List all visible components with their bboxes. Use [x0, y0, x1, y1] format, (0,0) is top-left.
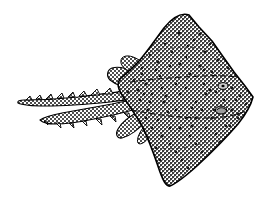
denticle-spot: [146, 108, 149, 111]
denticle-spot: [239, 95, 241, 97]
denticle-spot: [229, 125, 231, 127]
denticle-spot: [155, 147, 157, 149]
denticle-spot: [156, 60, 159, 63]
denticle-spot: [205, 127, 207, 129]
denticle-spot: [178, 62, 181, 65]
denticle-spot: [181, 159, 183, 161]
denticle-spot: [143, 93, 145, 95]
denticle-spot: [171, 51, 173, 53]
denticle-spot: [169, 143, 171, 145]
denticle-spot: [145, 117, 147, 119]
denticle-spot: [191, 107, 193, 109]
denticle-spot: [141, 73, 143, 75]
denticle-spot: [149, 101, 151, 103]
skate-illustration: Line drawing of a skate (ray) seen from …: [0, 0, 268, 202]
denticle-spot: [189, 135, 191, 137]
denticle-spot: [203, 50, 206, 53]
denticle-spot: [187, 45, 189, 47]
denticle-spot: [209, 43, 211, 45]
denticle-spot: [203, 69, 205, 71]
denticle-spot: [193, 39, 195, 41]
denticle-spot: [169, 65, 171, 67]
denticle-spot: [213, 109, 215, 111]
denticle-spot: [185, 56, 187, 58]
denticle-spot: [164, 94, 167, 97]
denticle-spot: [204, 92, 207, 95]
denticle-spot: [177, 31, 180, 34]
denticle-spot: [236, 112, 239, 115]
denticle-spot: [175, 83, 177, 85]
denticle-spot: [216, 58, 219, 61]
denticle-spot: [227, 67, 229, 69]
denticle-spot: [194, 116, 197, 119]
denticle-spot: [133, 79, 135, 81]
eye: [218, 83, 228, 90]
denticle-spot: [237, 117, 239, 119]
denticle-spot: [170, 168, 173, 171]
denticle-spot: [203, 83, 205, 85]
denticle-spot: [169, 127, 171, 129]
denticle-spot: [185, 117, 187, 119]
denticle-spot: [235, 99, 237, 101]
denticle-spot: [160, 134, 163, 137]
denticle-spot: [208, 88, 211, 91]
denticle-spot: [198, 32, 201, 35]
denticle-spot: [162, 100, 165, 103]
denticle-spot: [201, 109, 203, 111]
denticle-spot: [198, 64, 201, 67]
denticle-spot: [157, 119, 159, 121]
denticle-spot: [187, 167, 189, 169]
denticle-spot: [175, 151, 177, 153]
denticle-spot: [230, 108, 233, 111]
denticle-spot: [190, 124, 193, 127]
denticle-spot: [151, 93, 153, 95]
denticle-spot: [225, 125, 227, 127]
spiracle: [215, 106, 226, 114]
denticle-spot: [151, 127, 153, 129]
denticle-spot: [155, 69, 157, 71]
denticle-spot: [223, 99, 225, 101]
denticle-spot: [175, 109, 177, 111]
denticle-spot: [161, 87, 163, 89]
denticle-spot: [159, 159, 161, 161]
denticle-spot: [201, 151, 203, 153]
denticle-spot: [164, 43, 166, 45]
denticle-spot: [195, 101, 197, 103]
denticle-spot: [149, 54, 151, 56]
denticle-spot: [179, 93, 181, 95]
denticle-spot: [195, 143, 197, 145]
denticle-spot: [245, 103, 247, 105]
denticle-spot: [126, 90, 129, 93]
denticle-spot: [188, 72, 191, 75]
denticle-spot: [185, 87, 187, 89]
denticle-spot: [230, 86, 233, 89]
denticle-spot: [167, 111, 169, 113]
denticle-spot: [215, 91, 217, 93]
denticle-spot: [136, 88, 139, 91]
denticle-spot: [215, 133, 217, 135]
denticle-spot: [178, 126, 181, 129]
denticle-spot: [210, 116, 213, 119]
denticle-spot: [139, 99, 141, 101]
denticle-spot: [211, 71, 213, 73]
denticle-spot: [144, 82, 147, 85]
denticle-spot: [141, 67, 143, 69]
denticle-spot: [159, 75, 161, 77]
